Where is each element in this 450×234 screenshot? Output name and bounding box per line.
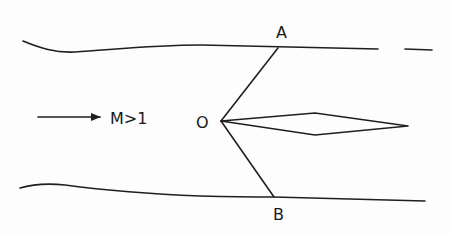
label-b: B — [273, 205, 284, 224]
label-o: O — [196, 113, 209, 132]
label-flow-mach: M>1 — [110, 109, 147, 128]
diamond-body — [221, 113, 408, 135]
upper-wall-dash — [405, 49, 432, 50]
upper-wall — [23, 41, 378, 52]
shock-ob — [221, 121, 274, 197]
diagram-canvas: A O B M>1 — [0, 0, 450, 234]
label-a: A — [276, 23, 287, 42]
shock-oa — [221, 48, 278, 121]
diagram-svg: A O B M>1 — [0, 0, 450, 234]
lower-wall — [20, 184, 425, 201]
